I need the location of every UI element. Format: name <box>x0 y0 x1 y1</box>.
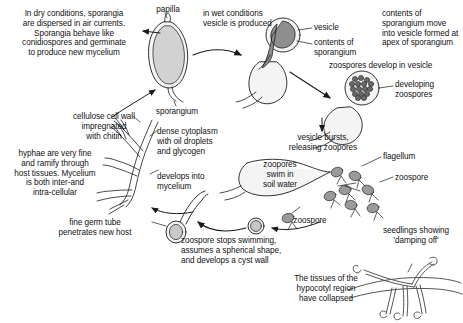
label-contents-move: contents of sporangium move into vesicle… <box>382 9 463 48</box>
label-dry-conditions: In dry conditions, sporangia are dispers… <box>4 9 144 58</box>
vesicle-stage-figure <box>236 18 300 108</box>
label-tissues-collapsed: The tissues of the hypocotyl region have… <box>283 274 369 303</box>
label-fine-germ-tube: fine germ tube penetrates new host <box>42 218 148 238</box>
label-seedlings-damping: seedlings showing 'damping off' <box>372 226 460 246</box>
sporangium-figure <box>149 13 188 102</box>
label-zoospore-stops: zoospore stops swimming, assumes a spher… <box>181 236 303 265</box>
label-developing-zoospores: developing zoospores <box>395 80 457 100</box>
diagram-canvas: In dry conditions, sporangia are dispers… <box>0 0 463 323</box>
label-dense-cytoplasm: dense cytoplasm with oil droplets and gl… <box>157 127 239 156</box>
label-cellulose-wall: cellulose cell wall impregnated with chi… <box>60 112 148 141</box>
arrow-to-germ-tube <box>198 222 246 231</box>
label-develops-into-mycelium: develops into mycelium <box>157 172 231 192</box>
label-flagellum: flagellum <box>383 152 443 162</box>
label-contents-of-sporangium: contents of sporangium <box>314 38 376 58</box>
arrow-to-developing-zoospores <box>290 72 330 98</box>
label-wet-conditions: in wet conditions vesicle is produced <box>203 9 283 29</box>
label-hyphae-fine: hyphae are very fine and ramify through … <box>6 149 104 198</box>
label-vesicle: vesicle <box>314 23 360 33</box>
label-zoospore-right: zoospore <box>395 173 455 183</box>
label-papilla: papilla <box>140 5 196 15</box>
label-vesicle-bursts: vesicle bursts, releasing zoopores <box>277 133 369 153</box>
encysted-spore-figure <box>248 218 264 234</box>
label-zoospores-develop: zoospores develop in vesicle <box>329 61 463 71</box>
label-sporangium: sporangium <box>148 107 206 117</box>
arrow-to-vesicle-stage <box>193 50 241 55</box>
label-zoospore-cyst: zoospore <box>282 216 338 226</box>
label-zoopores-swim: zoopores swim in soil water <box>251 160 309 189</box>
